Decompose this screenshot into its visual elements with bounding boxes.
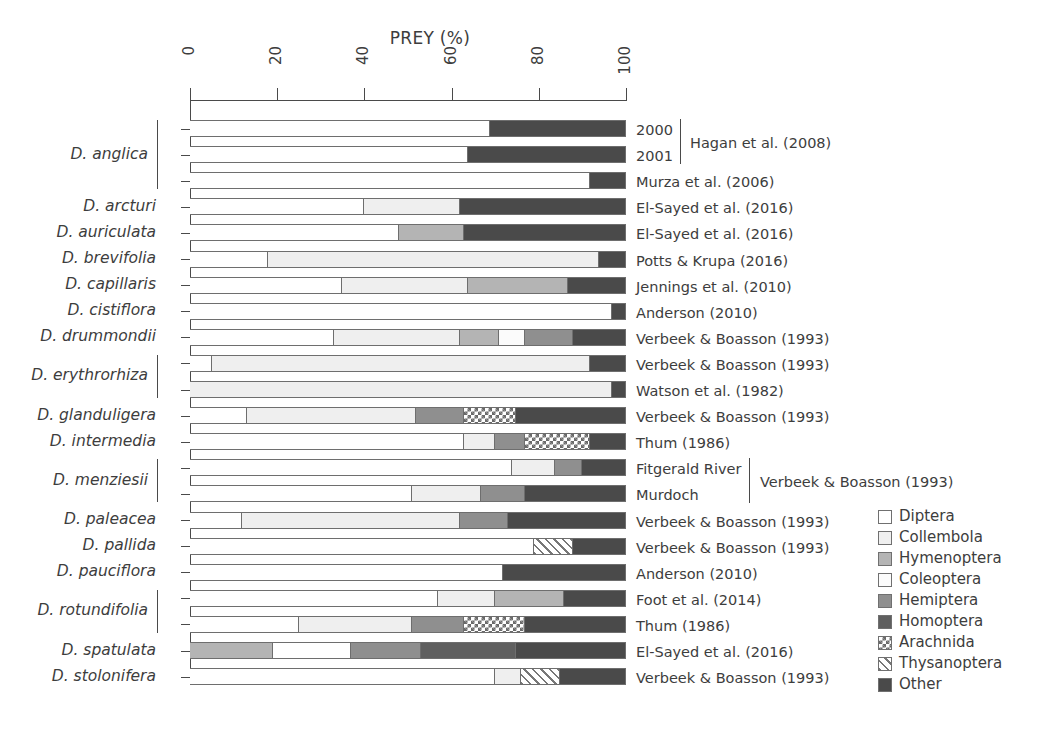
bar-segment-diptera [190, 252, 268, 267]
citation: Verbeek & Boasson (1993) [636, 410, 829, 425]
legend-item: Hemiptera [878, 590, 1048, 611]
legend-swatch-collembola [878, 531, 892, 545]
legend-label: Coleoptera [899, 572, 981, 587]
bar-segment-other [573, 330, 625, 345]
bar-segment-other [590, 434, 625, 449]
bar-segment-hymenoptera [190, 643, 273, 658]
species-label: D. pallida [83, 538, 156, 554]
citation-group-label: Verbeek & Boasson (1993) [760, 475, 953, 490]
legend-item: Diptera [878, 506, 1048, 527]
citation: Thum (1986) [636, 619, 730, 634]
stacked-bar [190, 120, 626, 137]
bar-row [190, 564, 626, 581]
stacked-bar [190, 668, 626, 685]
y-axis-tick [181, 363, 190, 364]
species-label: D. intermedia [50, 434, 156, 450]
bar-segment-other [590, 356, 625, 371]
bar-row [190, 277, 626, 294]
citation: Verbeek & Boasson (1993) [636, 332, 829, 347]
stacked-bar [190, 407, 626, 424]
citation-site: Murdoch [636, 488, 699, 503]
species-label: D. arcturi [83, 199, 156, 215]
bar-segment-hemiptera [495, 434, 525, 449]
legend-label: Homoptera [899, 614, 983, 629]
stacked-bar [190, 381, 626, 398]
y-axis-tick [181, 546, 190, 547]
species-bracket [157, 459, 158, 502]
legend-swatch-diptera [878, 510, 892, 524]
stacked-bar [190, 198, 626, 215]
x-axis-tick-label: 100 [618, 46, 633, 75]
y-axis-tick [181, 181, 190, 182]
bar-row [190, 668, 626, 685]
bar-segment-hemiptera [481, 486, 525, 501]
bar-segment-other [568, 278, 625, 293]
legend-item: Coleoptera [878, 569, 1048, 590]
legend-swatch-thysanoptera [878, 657, 892, 671]
bar-segment-collembola [334, 330, 460, 345]
bar-segment-collembola [364, 199, 460, 214]
bar-segment-collembola [212, 356, 590, 371]
bar-row [190, 590, 626, 607]
citation-site: Fitgerald River [636, 462, 741, 477]
stacked-bar [190, 616, 626, 633]
x-axis-tick-label: 40 [356, 46, 371, 65]
bar-segment-diptera [190, 669, 495, 684]
page-title: PREY (%) [0, 28, 860, 48]
x-axis-tick-label: 80 [531, 46, 546, 65]
stacked-bar [190, 459, 626, 476]
species-label: D. rotundifolia [37, 603, 148, 619]
bar-row [190, 198, 626, 215]
legend-swatch-arachnida [878, 636, 892, 650]
legend-label: Diptera [899, 509, 955, 524]
bar-segment-hymenoptera [495, 591, 565, 606]
bar-segment-other [612, 304, 625, 319]
x-axis-tick-label: 20 [269, 46, 284, 65]
stacked-bar [190, 224, 626, 241]
legend-swatch-hymenoptera [878, 552, 892, 566]
bar-segment-diptera [190, 617, 299, 632]
citation: Murza et al. (2006) [636, 175, 774, 190]
bar-row [190, 642, 626, 659]
bar-segment-other [516, 408, 625, 423]
citation-group-bracket [680, 119, 681, 164]
bar-segment-diptera [190, 434, 464, 449]
y-axis-tick [181, 520, 190, 521]
bar-segment-diptera [190, 460, 512, 475]
bar-row [190, 172, 626, 189]
bar-segment-other [590, 173, 625, 188]
species-label: D. erythrorhiza [31, 368, 148, 384]
bar-segment-collembola [247, 408, 417, 423]
bar-row [190, 146, 626, 163]
species-label: D. brevifolia [62, 251, 156, 267]
citation: Foot et al. (2014) [636, 593, 761, 608]
bar-segment-diptera [190, 539, 534, 554]
y-axis-tick [181, 337, 190, 338]
prey-composition-figure: PREY (%) 020406080100 D. anglicaD. arctu… [0, 0, 1051, 734]
legend-item: Collembola [878, 527, 1048, 548]
y-axis-tick [181, 155, 190, 156]
bar-segment-diptera [273, 643, 351, 658]
stacked-bar [190, 303, 626, 320]
bar-row [190, 433, 626, 450]
y-axis-tick [181, 598, 190, 599]
y-axis-tick [181, 624, 190, 625]
bar-row [190, 616, 626, 633]
bar-segment-other [560, 669, 625, 684]
y-axis-tick [181, 572, 190, 573]
bar-segment-other [516, 643, 625, 658]
legend-item: Other [878, 674, 1048, 695]
bar-segment-diptera [190, 513, 242, 528]
y-axis-tick [181, 651, 190, 652]
citation-year: 2000 [636, 123, 673, 138]
bar-segment-diptera [190, 173, 590, 188]
legend: DipteraCollembolaHymenopteraColeopteraHe… [878, 506, 1048, 695]
bar-segment-hymenoptera [460, 330, 499, 345]
bar-segment-diptera [190, 330, 334, 345]
bar-segment-other [468, 147, 625, 162]
citation-year: 2001 [636, 149, 673, 164]
bar-row [190, 512, 626, 529]
species-bracket [157, 590, 158, 633]
stacked-bar [190, 277, 626, 294]
bar-segment-diptera [190, 565, 503, 580]
